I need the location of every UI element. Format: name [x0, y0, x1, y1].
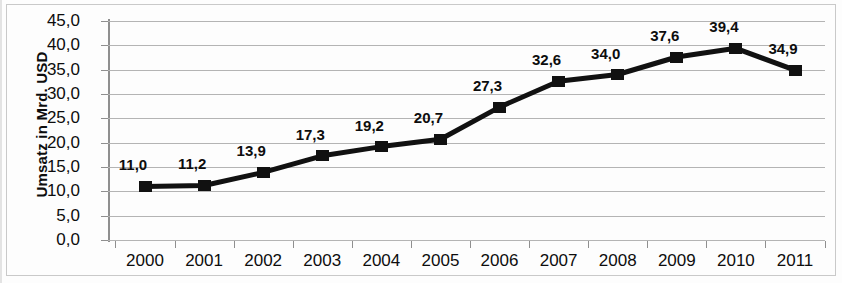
x-axis-tick	[588, 241, 589, 248]
x-axis-tick	[825, 241, 826, 248]
data-point-label: 11,0	[105, 157, 161, 172]
series-line	[108, 21, 825, 240]
data-point-label: 20,7	[400, 110, 456, 125]
y-axis-tick	[101, 21, 108, 22]
y-axis-tick-label: 0,0	[10, 231, 80, 248]
y-axis-tick-label: 10,0	[10, 182, 80, 199]
x-axis: 2000200120022003200420052006200720082009…	[108, 241, 825, 281]
data-point-marker	[139, 181, 152, 192]
data-point-label: 34,9	[755, 41, 811, 56]
x-axis-tick	[647, 241, 648, 248]
x-axis-tick	[175, 241, 176, 248]
x-axis-tick	[115, 241, 116, 248]
y-axis-tick	[101, 45, 108, 46]
y-axis-tick	[101, 70, 108, 71]
y-axis-tick-label: 15,0	[10, 158, 80, 175]
y-axis-tick-label: 35,0	[10, 61, 80, 78]
y-axis-tick-label: 45,0	[10, 12, 80, 29]
data-point-label: 34,0	[578, 46, 634, 61]
data-point-label: 32,6	[519, 52, 575, 67]
data-point-marker	[316, 150, 329, 161]
data-point-label: 17,3	[282, 127, 338, 142]
data-point-marker	[729, 43, 742, 54]
y-axis-tick	[101, 143, 108, 144]
y-axis-tick-label: 30,0	[10, 85, 80, 102]
scan-edge-artifact	[0, 0, 2, 283]
data-point-marker	[552, 76, 565, 87]
data-point-marker	[611, 69, 624, 80]
data-point-label: 11,2	[164, 156, 220, 171]
y-axis-tick	[101, 118, 108, 119]
x-axis-tick	[529, 241, 530, 248]
data-point-label: 13,9	[223, 143, 279, 158]
x-axis-tick	[470, 241, 471, 248]
data-point-marker	[789, 65, 802, 76]
chart-screenshot: Umsatz in Mrd. USD 45,040,035,030,025,02…	[0, 0, 842, 283]
x-axis-tick	[293, 241, 294, 248]
y-axis-tick-label: 20,0	[10, 134, 80, 151]
y-axis-tick	[101, 94, 108, 95]
data-point-marker	[257, 167, 270, 178]
x-axis-tick	[706, 241, 707, 248]
data-point-label: 19,2	[341, 118, 397, 133]
data-point-marker	[493, 102, 506, 113]
x-axis-tick	[234, 241, 235, 248]
y-axis-tick-label: 40,0	[10, 36, 80, 53]
y-axis-tick-label: 25,0	[10, 109, 80, 126]
data-point-label: 39,4	[696, 19, 752, 34]
y-axis-tick-label: 5,0	[10, 207, 80, 224]
y-axis-tick	[101, 240, 108, 241]
data-point-marker	[375, 141, 388, 152]
x-axis-tick	[411, 241, 412, 248]
x-axis-tick	[352, 241, 353, 248]
data-point-marker	[434, 134, 447, 145]
data-point-label: 27,3	[460, 78, 516, 93]
y-axis-tick	[101, 191, 108, 192]
x-axis-tick	[765, 241, 766, 248]
data-point-marker	[198, 180, 211, 191]
y-axis-tick	[101, 216, 108, 217]
data-point-label: 37,6	[637, 28, 693, 43]
x-axis-tick-label: 2011	[760, 252, 830, 270]
data-point-marker	[670, 52, 683, 63]
plot-area: 45,040,035,030,025,020,015,010,05,00,0 1…	[108, 21, 825, 240]
